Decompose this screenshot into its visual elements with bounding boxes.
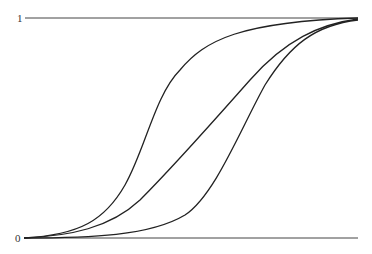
curve-middle: [24, 19, 358, 238]
sigmoid-plot: [0, 0, 372, 254]
curve-left: [24, 18, 358, 238]
curve-right: [24, 20, 358, 238]
